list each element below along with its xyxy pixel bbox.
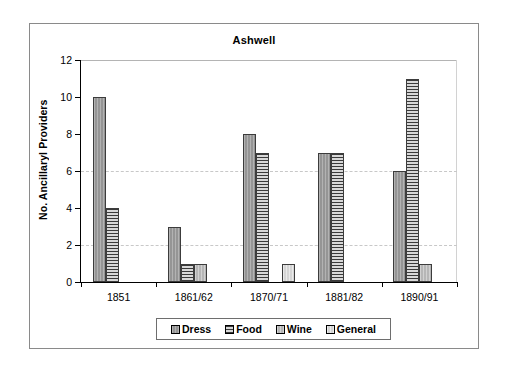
y-tick-mark-6 <box>75 171 80 172</box>
x-tick-mark <box>156 283 157 287</box>
y-tick-mark-8 <box>75 134 80 135</box>
legend-swatch-dress-icon <box>171 325 180 334</box>
y-tick-mark-12 <box>75 60 80 61</box>
bar-food-1870-71 <box>256 153 269 283</box>
legend-label: Food <box>236 323 262 335</box>
bar-dress-1881-82 <box>318 153 331 283</box>
legend-item-wine[interactable]: Wine <box>276 323 312 335</box>
legend-swatch-general-icon <box>326 325 335 334</box>
x-axis-line <box>80 282 458 283</box>
bar-food-1851 <box>106 208 119 282</box>
x-category-label-1851: 1851 <box>107 291 130 303</box>
y-tick-label-wrap: 2 <box>44 245 72 246</box>
y-tick-label: 6 <box>44 165 72 177</box>
x-category-label-1881-82: 1881/82 <box>325 291 363 303</box>
y-tick-label-wrap: 6 <box>44 171 72 172</box>
y-axis-title: No. Ancillaryl Providers <box>34 50 52 270</box>
y-tick-label: 12 <box>44 54 72 66</box>
x-tick-mark <box>457 283 458 287</box>
legend-item-dress[interactable]: Dress <box>171 323 211 335</box>
bar-dress-1851 <box>93 97 106 282</box>
x-category-label-1861-62: 1861/62 <box>175 291 213 303</box>
legend-item-food[interactable]: Food <box>225 323 262 335</box>
bar-dress-1870-71 <box>243 134 256 282</box>
y-tick-label-wrap: 12 <box>44 60 72 61</box>
bar-dress-1890-91 <box>393 171 406 282</box>
y-tick-label-wrap: 4 <box>44 208 72 209</box>
y-tick-label: 4 <box>44 202 72 214</box>
y-tick-mark-10 <box>75 97 80 98</box>
y-tick-label: 10 <box>44 91 72 103</box>
x-category-label-1870-71: 1870/71 <box>250 291 288 303</box>
bar-wine-1861-62 <box>194 264 207 283</box>
legend-swatch-wine-icon <box>276 325 285 334</box>
y-tick-mark-4 <box>75 208 80 209</box>
bar-general-1870-71 <box>282 264 295 283</box>
bar-wine-1890-91 <box>419 264 432 283</box>
plot-top-border <box>81 60 457 61</box>
bar-dress-1861-62 <box>168 227 181 283</box>
x-tick-mark <box>81 283 82 287</box>
chart-title: Ashwell <box>30 34 478 46</box>
x-tick-mark <box>231 283 232 287</box>
y-axis-line <box>80 60 81 283</box>
x-tick-mark <box>382 283 383 287</box>
y-tick-label: 0 <box>44 276 72 288</box>
y-tick-label-wrap: 10 <box>44 97 72 98</box>
legend-label: General <box>337 323 376 335</box>
legend-label: Dress <box>182 323 211 335</box>
chart-legend: DressFoodWineGeneral <box>156 318 391 340</box>
plot-area <box>81 60 457 282</box>
bar-food-1861-62 <box>181 264 194 283</box>
x-tick-mark <box>307 283 308 287</box>
legend-item-general[interactable]: General <box>326 323 376 335</box>
legend-label: Wine <box>287 323 312 335</box>
bar-food-1890-91 <box>406 79 419 283</box>
chart-frame: Ashwell No. Ancillaryl Providers 0246810… <box>29 23 479 349</box>
y-tick-label: 2 <box>44 239 72 251</box>
x-category-label-1890-91: 1890/91 <box>400 291 438 303</box>
y-tick-label-wrap: 0 <box>44 282 72 283</box>
y-tick-label-wrap: 8 <box>44 134 72 135</box>
legend-swatch-food-icon <box>225 325 234 334</box>
bar-food-1881-82 <box>331 153 344 283</box>
y-tick-label: 8 <box>44 128 72 140</box>
y-tick-mark-2 <box>75 245 80 246</box>
